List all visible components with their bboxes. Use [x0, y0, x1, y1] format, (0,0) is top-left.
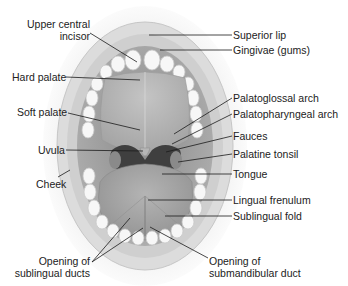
label-opening-of-submandibular-duct: Opening of submandibular duct [209, 255, 301, 279]
left-tonsil [109, 151, 121, 169]
label-superior-lip: Superior lip [233, 29, 286, 41]
label-hard-palate: Hard palate [12, 71, 66, 83]
label-fauces: Fauces [233, 130, 267, 142]
label-soft-palate: Soft palate [17, 106, 67, 118]
label-palatine-tonsil: Palatine tonsil [233, 148, 298, 160]
label-opening-of-sublingual-ducts: Opening of sublingual ducts [10, 255, 90, 279]
label-uvula: Uvula [38, 144, 65, 156]
label-palatoglossal-arch: Palatoglossal arch [233, 92, 319, 104]
label-sublingual-fold: Sublingual fold [233, 210, 302, 222]
label-gingivae: Gingivae (gums) [233, 44, 310, 56]
right-tonsil [170, 151, 182, 169]
mouth-illustration [0, 0, 348, 286]
oral-cavity-diagram: Upper central incisor Hard palate Soft p… [0, 0, 348, 286]
label-cheek: Cheek [36, 178, 66, 190]
label-tongue: Tongue [233, 168, 267, 180]
label-upper-central-incisor: Upper central incisor [14, 18, 90, 42]
label-palatopharyngeal-arch: Palatopharyngeal arch [233, 108, 338, 120]
label-lingual-frenulum: Lingual frenulum [233, 194, 311, 206]
